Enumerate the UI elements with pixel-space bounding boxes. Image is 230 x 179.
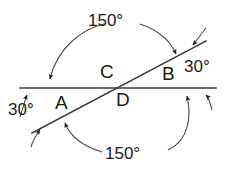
point-label-c: C <box>100 62 114 81</box>
angle-label-left-30: 30° <box>8 101 34 118</box>
diagonal-line <box>32 41 206 133</box>
top-150-arc-right <box>140 24 176 54</box>
point-label-b: B <box>162 64 175 83</box>
bottom-150-arc-left <box>65 123 102 152</box>
right-30-arc <box>206 95 212 110</box>
top-150-arc-left <box>50 24 104 79</box>
point-label-a: A <box>55 93 68 112</box>
point-label-d: D <box>116 90 130 109</box>
diagram-canvas: A B C D 30° 30° 150° 150° <box>0 0 230 179</box>
angle-label-bottom-150: 150° <box>105 145 140 162</box>
angle-label-right-30: 30° <box>184 58 210 75</box>
bottom-150-arc-right <box>168 96 189 150</box>
angle-label-top-150: 150° <box>88 12 123 29</box>
